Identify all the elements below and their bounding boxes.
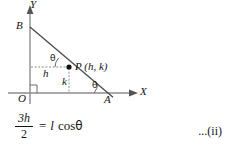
segment-label-h: h [43,68,49,79]
angle-label-upper-theta: θ [50,54,56,63]
geometry-figure: Y X B O A P (h, k) h k θ θ [0,0,228,112]
fraction-numerator: 3h [15,112,33,126]
x-axis-label: X [140,86,147,97]
equation-reference-number: ...(ii) [198,124,222,139]
fraction-3h-over-2: 3h 2 [15,112,33,140]
point-label-o: O [18,93,26,104]
point-label-p: P (h, k) [75,61,107,72]
segment-label-k: k [62,76,67,87]
cos-function: cos [58,118,75,134]
fraction-denominator: 2 [18,127,30,141]
equation-expression: 3h 2 = l cos θ [15,112,83,140]
point-p-marker [66,64,71,69]
point-label-a: A [104,94,111,105]
equation-row: 3h 2 = l cos θ ...(ii) [0,110,228,148]
right-angle-marker-icon [30,85,37,93]
variable-l: l [50,118,54,134]
equals-sign: = [39,118,46,134]
x-axis-arrow-icon [129,90,138,97]
figure-canvas [0,0,228,112]
angle-label-lower-theta: θ [92,81,98,90]
theta-symbol: θ [75,119,82,133]
y-axis-label: Y [30,0,36,10]
point-label-b: B [16,20,23,31]
